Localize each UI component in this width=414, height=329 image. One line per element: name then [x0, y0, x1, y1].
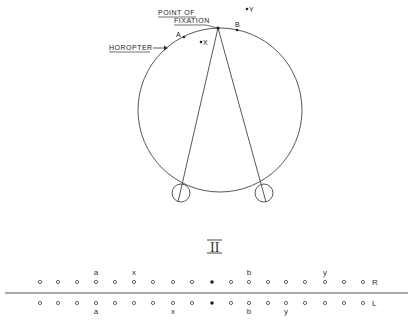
right-row-receptor-mark — [266, 280, 269, 283]
fixation-label-line1: POINT OF — [158, 9, 195, 16]
left-row-receptor-mark — [113, 301, 116, 304]
right-row-label: R — [372, 278, 378, 287]
point-b-label: B — [235, 21, 240, 28]
left-row-receptor-mark — [75, 301, 78, 304]
point-x-label: X — [203, 39, 208, 46]
right-row-receptor-mark — [75, 280, 78, 283]
right-row-point-letter: y — [323, 268, 327, 277]
right-row-receptor-mark — [113, 280, 116, 283]
right-row-receptor-mark — [38, 280, 41, 283]
point-a-label: A — [176, 31, 181, 38]
left-row-receptor-mark — [303, 301, 306, 304]
left-row-receptor-mark — [323, 301, 326, 304]
point-a-dot — [183, 36, 186, 39]
right-row-receptor-mark — [323, 280, 326, 283]
horopter-label: HOROPTER — [109, 44, 153, 51]
right-retina-row: axby — [38, 268, 364, 284]
right-row-receptor-mark — [132, 280, 135, 283]
right-row-receptor-mark — [94, 280, 97, 283]
right-row-receptor-mark — [171, 280, 174, 283]
left-row-receptor-mark — [361, 301, 364, 304]
right-row-point-letter: b — [247, 268, 252, 277]
left-retina-row: axby — [38, 301, 364, 316]
left-row-point-letter: b — [247, 307, 252, 316]
left-row-receptor-mark — [171, 301, 174, 304]
point-x-dot — [200, 41, 203, 44]
left-row-receptor-mark — [151, 301, 154, 304]
left-row-fovea-dot — [210, 301, 214, 305]
left-row-point-letter: x — [171, 307, 175, 316]
fixation-pointer — [206, 25, 217, 28]
left-row-receptor-mark — [190, 301, 193, 304]
horopter-circle — [138, 28, 302, 192]
left-row-receptor-mark — [266, 301, 269, 304]
right-row-receptor-mark — [284, 280, 287, 283]
right-row-receptor-mark — [303, 280, 306, 283]
right-row-receptor-mark — [190, 280, 193, 283]
point-b-dot — [236, 29, 239, 32]
right-row-receptor-mark — [229, 280, 232, 283]
left-row-receptor-mark — [342, 301, 345, 304]
point-y-label: Y — [249, 6, 254, 13]
right-row-receptor-mark — [56, 280, 59, 283]
left-row-receptor-mark — [284, 301, 287, 304]
left-row-receptor-mark — [229, 301, 232, 304]
right-row-point-letter: x — [132, 268, 136, 277]
right-eye-line-of-sight — [218, 28, 266, 202]
right-row-receptor-mark — [151, 280, 154, 283]
right-row-receptor-mark — [247, 280, 250, 283]
left-row-point-letter: a — [94, 307, 99, 316]
horopter-diagram: POINT OF FIXATION A X B Y HOROPTER II ax… — [0, 0, 414, 329]
left-row-point-letter: y — [284, 307, 288, 316]
fixation-label-line2: FIXATION — [174, 17, 210, 24]
horopter-arrow-head — [164, 46, 168, 51]
point-y-dot — [246, 8, 249, 11]
left-row-receptor-mark — [94, 301, 97, 304]
left-row-receptor-mark — [132, 301, 135, 304]
right-row-receptor-mark — [361, 280, 364, 283]
left-row-receptor-mark — [247, 301, 250, 304]
left-row-receptor-mark — [38, 301, 41, 304]
right-row-fovea-dot — [210, 280, 214, 284]
left-eye — [172, 184, 190, 202]
right-row-receptor-mark — [342, 280, 345, 283]
left-row-receptor-mark — [56, 301, 59, 304]
right-eye — [255, 184, 273, 202]
left-eye-line-of-sight — [178, 28, 218, 202]
right-row-point-letter: a — [94, 268, 99, 277]
left-row-label: L — [372, 299, 377, 308]
